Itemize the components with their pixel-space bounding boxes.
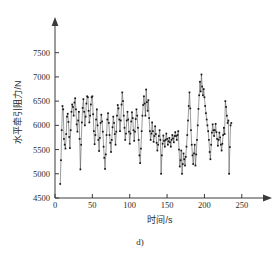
data-point-marker	[205, 112, 207, 114]
y-tick-label: 7500	[33, 48, 50, 58]
data-point-marker	[59, 183, 61, 185]
data-point-marker	[120, 120, 122, 122]
data-point-marker	[62, 109, 64, 111]
data-point-marker	[177, 134, 179, 136]
data-point-marker	[212, 124, 214, 126]
data-point-marker	[114, 133, 116, 135]
data-point-marker	[186, 146, 188, 148]
data-point-marker	[148, 117, 150, 119]
data-point-marker	[83, 98, 85, 100]
data-point-marker	[65, 133, 67, 135]
x-tick-label: 100	[123, 200, 136, 210]
data-point-marker	[178, 149, 180, 151]
data-point-marker	[154, 135, 156, 137]
x-tick-label: 0	[53, 200, 57, 210]
data-point-marker	[162, 143, 164, 145]
data-point-marker	[124, 139, 126, 141]
data-point-marker	[71, 104, 73, 106]
data-point-marker	[68, 121, 70, 123]
data-point-marker	[170, 146, 172, 148]
data-point-marker	[222, 134, 224, 136]
data-point-marker	[132, 117, 134, 119]
data-point-marker	[81, 122, 83, 124]
data-point-marker	[134, 131, 136, 133]
data-point-marker	[90, 104, 92, 106]
data-point-marker	[118, 108, 120, 110]
data-point-marker	[136, 109, 138, 111]
data-point-marker	[228, 173, 230, 175]
data-point-marker	[61, 129, 63, 131]
y-axis-title: 水平牵引阻力/N	[12, 81, 23, 144]
data-point-marker	[74, 97, 76, 99]
data-point-marker	[70, 129, 72, 131]
data-point-marker	[84, 124, 86, 126]
data-point-marker	[80, 169, 82, 171]
data-point-marker	[109, 134, 111, 136]
data-point-marker	[133, 129, 135, 131]
data-point-marker	[98, 150, 100, 152]
data-point-marker	[108, 122, 110, 124]
data-point-marker	[210, 158, 212, 160]
data-point-marker	[195, 154, 197, 156]
data-point-marker	[216, 138, 218, 140]
data-point-marker	[221, 150, 223, 152]
data-point-marker	[62, 105, 64, 107]
data-point-marker	[208, 139, 210, 141]
data-point-marker	[125, 133, 127, 135]
data-point-marker	[112, 116, 114, 118]
data-point-marker	[130, 133, 132, 135]
data-point-marker	[209, 151, 211, 153]
data-point-marker	[124, 127, 126, 129]
data-point-marker	[146, 101, 148, 103]
data-point-marker	[118, 119, 120, 121]
data-point-marker	[97, 124, 99, 126]
data-point-marker	[224, 133, 226, 135]
data-point-marker	[196, 139, 198, 141]
data-point-marker	[203, 88, 205, 90]
data-point-marker	[79, 138, 81, 140]
data-point-marker	[121, 92, 123, 94]
data-point-marker	[145, 115, 147, 117]
data-point-marker	[181, 173, 183, 175]
data-point-marker	[155, 133, 157, 135]
data-point-marker	[225, 106, 227, 108]
data-point-marker	[67, 113, 69, 115]
data-point-marker	[128, 131, 130, 133]
data-point-marker	[141, 130, 143, 132]
data-point-marker	[214, 129, 216, 131]
data-point-marker	[223, 127, 225, 129]
data-point-marker	[101, 121, 103, 123]
data-point-marker	[168, 137, 170, 139]
data-point-marker	[115, 144, 117, 146]
data-point-marker	[95, 134, 97, 136]
data-point-marker	[142, 115, 144, 117]
data-point-marker	[113, 122, 115, 124]
y-tick-label: 5500	[33, 145, 50, 155]
data-point-marker	[66, 116, 68, 118]
data-point-marker	[177, 130, 179, 132]
data-point-marker	[131, 111, 133, 113]
data-point-marker	[227, 120, 229, 122]
data-point-marker	[153, 141, 155, 143]
data-point-marker	[199, 81, 201, 83]
data-point-marker	[135, 118, 137, 120]
data-point-marker	[142, 104, 144, 106]
data-point-marker	[171, 139, 173, 141]
data-point-marker	[82, 107, 84, 109]
data-point-marker	[127, 119, 129, 121]
data-point-marker	[165, 139, 167, 141]
data-point-marker	[219, 132, 221, 134]
data-point-marker	[175, 135, 177, 137]
data-point-marker	[71, 111, 73, 113]
data-point-marker	[77, 131, 79, 133]
data-point-marker	[151, 133, 153, 135]
x-tick-label: 50	[88, 200, 97, 210]
y-tick-label: 5000	[33, 169, 50, 179]
data-point-marker	[72, 106, 74, 108]
data-point-marker	[111, 139, 113, 141]
data-point-marker	[190, 129, 192, 131]
data-point-marker	[157, 150, 159, 152]
figure-caption: d)	[136, 237, 144, 247]
data-point-marker	[195, 165, 197, 167]
data-point-marker	[213, 129, 215, 131]
